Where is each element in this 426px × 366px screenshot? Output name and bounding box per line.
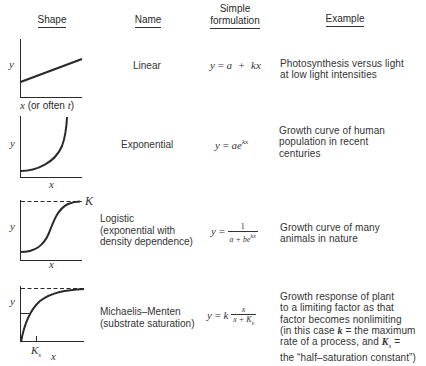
example-exp-line: centuries	[279, 148, 385, 159]
formula-logistic-eq: =	[219, 225, 225, 237]
formula-mm-den-base: x + K	[233, 315, 251, 324]
name-logistic-line: (exponential with	[100, 225, 193, 237]
example-linear: Photosynthesis versus light at low light…	[280, 58, 404, 81]
graph-logistic	[20, 200, 82, 261]
example-mm-text: = the maximum	[343, 325, 416, 336]
mm-ks-label-sub: s	[38, 351, 41, 359]
exponential-curve	[21, 117, 68, 171]
example-mm-line: the “half–saturation constant”)	[280, 352, 416, 363]
linear-curve	[21, 59, 83, 82]
logistic-x-label: x	[49, 258, 54, 270]
formula-mm-coef: k	[224, 309, 229, 321]
example-linear-line: at low light intensities	[280, 69, 404, 80]
mm-ks-label: Ks	[31, 344, 41, 359]
formula-mm-num: x	[231, 305, 256, 315]
linear-x-rest: (or often	[28, 100, 65, 111]
linear-x-var: x	[20, 99, 25, 111]
example-exp-line: population in recent	[279, 136, 385, 147]
formula-logistic-den-exp: kx	[251, 233, 256, 239]
logistic-k-label: K	[85, 194, 93, 209]
example-michaelis-menten: Growth response of plant to a limiting f…	[280, 291, 416, 364]
example-mm-K: K	[382, 336, 389, 347]
example-exponential: Growth curve of human population in rece…	[279, 125, 385, 159]
example-exp-line: Growth curve of human	[279, 125, 385, 136]
formula-mm-eq: =	[215, 309, 221, 321]
formula-mm-den-sub: s	[252, 320, 254, 326]
logistic-curve	[21, 202, 81, 253]
formula-exp-exponent: kx	[242, 138, 248, 146]
example-logistic-line: animals in nature	[280, 233, 380, 244]
graph-linear	[20, 39, 82, 98]
formula-michaelis-menten: y = k x x + Ks	[207, 305, 256, 328]
example-mm-line: (in this case k = the maximum	[280, 325, 416, 336]
formula-mm-fraction: x x + Ks	[231, 305, 256, 328]
example-mm-text: rate of a process, and	[280, 336, 382, 347]
linear-x-close: )	[71, 100, 74, 111]
graph-exponential	[20, 116, 82, 178]
formula-exp-eq: =	[223, 139, 229, 151]
exponential-y-label: y	[10, 137, 15, 149]
formula-logistic-lhs: y	[211, 225, 216, 237]
formula-exponential: y = aekx	[215, 138, 248, 151]
name-logistic-line: Logistic	[100, 213, 193, 225]
example-mm-text: (in this case	[280, 325, 338, 336]
formula-logistic-den: a + bekx	[228, 232, 258, 244]
linear-x-label: x (or often t)	[20, 99, 74, 111]
formula-logistic-den-base: a + be	[230, 235, 251, 244]
graph-michaelis-menten	[20, 286, 84, 342]
name-linear: Linear	[133, 60, 161, 72]
formula-linear-lhs: y	[210, 59, 215, 71]
linear-y-label: y	[9, 58, 14, 70]
exponential-x-label: x	[49, 178, 54, 190]
formula-linear-rhs: a + kx	[227, 59, 261, 71]
name-mm-line: (substrate saturation)	[100, 318, 195, 330]
name-mm-line: Michaelis–Menten	[100, 306, 195, 318]
formula-mm-lhs: y	[207, 309, 212, 321]
mm-curve	[21, 289, 84, 342]
formula-logistic-fraction: 1 a + bekx	[228, 222, 258, 244]
name-exponential: Exponential	[121, 139, 173, 151]
formula-exp-base: ae	[232, 139, 242, 151]
formula-mm-den: x + Ks	[231, 315, 256, 328]
formula-exp-lhs: y	[215, 139, 220, 151]
example-linear-line: Photosynthesis versus light	[280, 58, 404, 69]
example-mm-line: rate of a process, and Ks =	[280, 336, 416, 352]
formula-logistic-num: 1	[228, 222, 258, 232]
formula-logistic: y = 1 a + bekx	[211, 222, 258, 244]
example-logistic-line: Growth curve of many	[280, 222, 380, 233]
example-logistic: Growth curve of many animals in nature	[280, 222, 380, 245]
name-michaelis-menten: Michaelis–Menten (substrate saturation)	[100, 306, 195, 329]
mm-y-label: y	[10, 295, 15, 307]
formula-linear: y = a + kx	[210, 59, 261, 71]
logistic-y-label: y	[10, 220, 15, 232]
example-mm-line: Growth response of plant	[280, 291, 416, 302]
example-mm-line: to a limiting factor as that	[280, 302, 416, 313]
mm-x-label: x	[51, 350, 56, 362]
example-mm-line: factor becomes nonlimiting	[280, 314, 416, 325]
formula-linear-eq: =	[218, 59, 224, 71]
name-logistic: Logistic (exponential with density depen…	[100, 213, 193, 248]
example-mm-text: =	[391, 336, 400, 347]
name-logistic-line: density dependence)	[100, 236, 193, 248]
